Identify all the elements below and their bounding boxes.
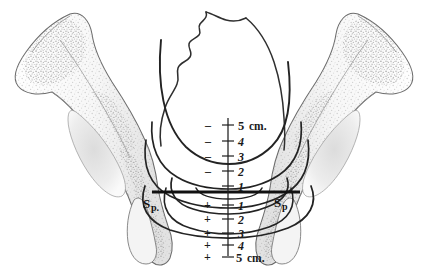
- left-sp-sub: p.: [151, 202, 160, 213]
- label-plus-2: 2: [237, 213, 244, 227]
- sign-minus-1: –: [204, 179, 212, 193]
- negative-sign-group: – – – – –: [204, 118, 212, 193]
- fetal-station-figure: – – – – – + + + + + 5 cm. 4 3 2 1 1 2 3 …: [0, 0, 428, 270]
- sign-plus-1: +: [204, 198, 211, 212]
- label-plus-1: 1: [238, 199, 244, 213]
- sign-minus-4: –: [204, 134, 212, 148]
- label-minus-2: 2: [237, 165, 244, 179]
- label-plus-5-number: 5: [236, 251, 242, 265]
- left-sp-main: S: [143, 196, 150, 211]
- label-minus-4: 4: [237, 135, 244, 149]
- label-minus-3: 3: [237, 150, 244, 164]
- sign-minus-2: –: [204, 164, 212, 178]
- label-minus-5-unit: cm.: [249, 120, 267, 132]
- right-sp-sub: p: [282, 201, 288, 212]
- sign-minus-3: –: [204, 149, 212, 163]
- sign-plus-5: +: [204, 250, 211, 264]
- positive-sign-group: + + + + +: [204, 198, 211, 264]
- label-plus-5-unit: cm.: [247, 252, 265, 264]
- label-minus-1: 1: [238, 180, 244, 194]
- sign-minus-5: –: [204, 118, 212, 132]
- sign-plus-2: +: [204, 212, 211, 226]
- right-sp-main: S: [274, 195, 281, 210]
- label-minus-5-number: 5: [238, 119, 244, 133]
